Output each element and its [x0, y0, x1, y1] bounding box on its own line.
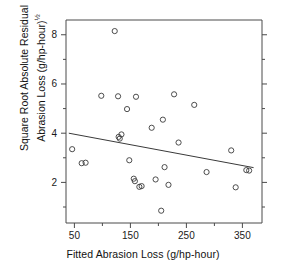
- data-point: [112, 28, 117, 33]
- y-axis-label-line1: Square Root Absolute Residual: [18, 5, 31, 151]
- data-points: [70, 28, 252, 213]
- x-tick-label: 350: [234, 230, 251, 241]
- data-point: [115, 94, 120, 99]
- y-axis-label: Square Root Absolute Residual Abrasion L…: [15, 0, 51, 183]
- regression-line: [69, 133, 254, 167]
- data-point: [229, 148, 234, 153]
- data-point: [160, 117, 165, 122]
- exponent-one-half: ½: [33, 14, 42, 20]
- data-point: [176, 140, 181, 145]
- data-point: [99, 93, 104, 98]
- data-point: [162, 165, 167, 170]
- y-tick-label: 6: [51, 78, 57, 89]
- x-axis-label: Fitted Abrasion Loss (g/hp-hour): [0, 248, 286, 260]
- y-tick-label: 2: [51, 177, 57, 188]
- fit-line: [69, 133, 254, 167]
- y-axis-label-line2-text: Abrasion Loss (g/hp-hour): [35, 20, 47, 141]
- data-point: [233, 185, 238, 190]
- y-axis-label-line2: Abrasion Loss (g/hp-hour)½: [31, 14, 48, 142]
- x-tick-label: 150: [122, 230, 139, 241]
- data-point: [159, 208, 164, 213]
- data-point: [149, 125, 154, 130]
- data-point: [70, 147, 75, 152]
- data-point: [133, 94, 138, 99]
- x-tick-label: 50: [69, 230, 81, 241]
- data-point: [127, 158, 132, 163]
- data-point: [153, 177, 158, 182]
- x-axis-ticks: [74, 223, 242, 228]
- x-tick-label: 250: [178, 230, 195, 241]
- data-point: [171, 92, 176, 97]
- data-point: [192, 102, 197, 107]
- y-axis-ticks: [61, 35, 267, 207]
- y-tick-label: 8: [51, 29, 57, 40]
- data-point: [204, 169, 209, 174]
- y-tick-label: 4: [51, 128, 57, 139]
- data-point: [124, 106, 129, 111]
- y-axis-tick-labels: 2468: [51, 29, 57, 188]
- scatter-plot-figure: 50150250350 2468 Fitted Abrasion Loss (g…: [0, 0, 286, 273]
- data-point: [166, 182, 171, 187]
- x-axis-tick-labels: 50150250350: [69, 230, 251, 241]
